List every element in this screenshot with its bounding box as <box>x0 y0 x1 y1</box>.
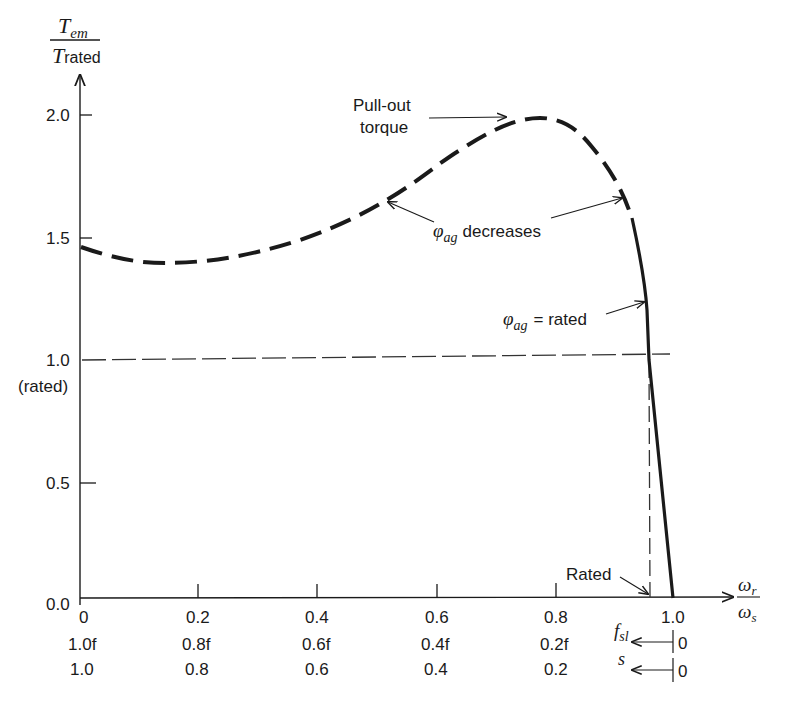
svg-text:1.0: 1.0 <box>661 608 685 627</box>
torque-curve-rated-flux <box>632 218 673 598</box>
svg-text:0.2: 0.2 <box>544 660 568 679</box>
svg-text:ωr: ωr <box>738 574 757 598</box>
svg-text:1.0: 1.0 <box>46 351 70 370</box>
slip-tick-labels: 1.0 0.8 0.6 0.4 0.2 <box>70 660 568 679</box>
svg-text:0.8f: 0.8f <box>182 635 211 654</box>
svg-text:torque: torque <box>360 118 408 137</box>
svg-text:0.6: 0.6 <box>425 608 449 627</box>
svg-text:0.2: 0.2 <box>186 608 210 627</box>
rated-torque-line <box>82 354 670 360</box>
svg-text:ωs: ωs <box>738 601 756 625</box>
fsl-tick-labels: 1.0f 0.8f 0.6f 0.4f 0.2f <box>68 635 569 654</box>
annotation-phi-rated: φag= rated <box>503 302 644 333</box>
svg-text:(rated): (rated) <box>18 377 68 396</box>
svg-text:s: s <box>618 649 625 669</box>
y-tick-labels: 2.0 1.5 1.0 (rated) 0.5 0.0 <box>18 106 70 614</box>
x-axis <box>80 597 733 598</box>
svg-text:Pull-out: Pull-out <box>353 96 411 115</box>
svg-text:0.8: 0.8 <box>185 660 209 679</box>
y-ticks <box>80 115 96 483</box>
svg-text:Rated: Rated <box>566 565 611 584</box>
svg-text:2.0: 2.0 <box>46 106 70 125</box>
svg-text:fsl: fsl <box>614 620 629 644</box>
svg-text:0.6: 0.6 <box>305 660 329 679</box>
slip-axis-marker: s 0 <box>618 649 687 682</box>
svg-text:0: 0 <box>678 662 687 681</box>
svg-text:0.2f: 0.2f <box>540 635 569 654</box>
y-axis-label: Tem Trated <box>50 13 101 68</box>
torque-speed-chart: Tem Trated 2.0 1.5 1.0 (rated) 0.5 0.0 0… <box>0 0 785 702</box>
annotation-rated: Rated <box>566 565 648 594</box>
svg-text:0.0: 0.0 <box>46 595 70 614</box>
annotation-phi-decreases: φagdecreases <box>388 198 622 245</box>
svg-text:φagdecreases: φagdecreases <box>433 220 541 245</box>
svg-text:1.5: 1.5 <box>46 229 70 248</box>
svg-text:φag= rated: φag= rated <box>503 308 587 333</box>
svg-text:Trated: Trated <box>52 43 101 68</box>
svg-text:0: 0 <box>678 634 687 653</box>
rated-speed-line <box>649 362 650 597</box>
torque-curve-flux-weakening <box>81 118 629 263</box>
svg-text:0.4f: 0.4f <box>421 635 450 654</box>
svg-text:0: 0 <box>79 608 88 627</box>
x-ticks <box>198 583 556 598</box>
svg-text:0.4: 0.4 <box>305 608 329 627</box>
annotation-pullout-torque: Pull-out torque <box>353 96 506 137</box>
svg-text:Tem: Tem <box>58 13 88 41</box>
svg-text:0.4: 0.4 <box>424 660 448 679</box>
svg-text:0.5: 0.5 <box>46 474 70 493</box>
svg-text:1.0f: 1.0f <box>68 635 97 654</box>
svg-text:0.8: 0.8 <box>544 608 568 627</box>
svg-text:1.0: 1.0 <box>70 660 94 679</box>
x-tick-labels: 0 0.2 0.4 0.6 0.8 1.0 <box>79 608 685 627</box>
svg-text:0.6f: 0.6f <box>302 635 331 654</box>
x-axis-label: ωr ωs <box>737 574 760 625</box>
